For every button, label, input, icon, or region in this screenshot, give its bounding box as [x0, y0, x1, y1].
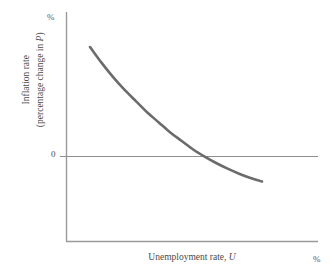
- plot-area: [0, 0, 334, 275]
- x-axis-variable-symbol: U: [229, 252, 236, 262]
- phillips-curve-line: [90, 47, 262, 182]
- x-axis-title-text: Unemployment rate,: [148, 252, 228, 262]
- y-axis-percent-label: %: [47, 13, 55, 22]
- y-axis-title-line2-suffix: ): [35, 32, 45, 35]
- y-axis-zero-tick-label: 0: [51, 150, 56, 159]
- y-axis-title-line1: Inflation rate: [20, 0, 34, 170]
- y-axis-title-line2: (percentage change in P): [34, 0, 48, 170]
- phillips-curve-figure: % % 0 Unemployment rate, U Inflation rat…: [0, 0, 334, 275]
- y-axis-title: Inflation rate (percentage change in P): [20, 0, 48, 170]
- y-axis-title-line2-prefix: (percentage change in: [35, 41, 45, 127]
- x-axis-title: Unemployment rate, U: [66, 252, 318, 263]
- y-axis-variable-symbol: P: [35, 36, 45, 42]
